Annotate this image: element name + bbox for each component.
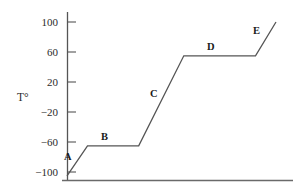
y-tick-label-60: 60: [24, 47, 58, 58]
y-tick-label-minus100: −100: [14, 167, 58, 178]
y-tick-label-20: 20: [24, 77, 58, 88]
chart-figure: 100 60 20 −20 −60 −100 T° A B C D E: [0, 0, 294, 194]
y-tick-label-minus20: −20: [20, 107, 58, 118]
y-tick-label-100: 100: [24, 17, 58, 28]
segment-label-e: E: [253, 26, 260, 37]
y-tick-label-minus60: −60: [20, 137, 58, 148]
segment-label-a: A: [64, 152, 72, 163]
chart-plot-area: [0, 0, 294, 194]
segment-label-b: B: [101, 132, 108, 143]
heating-curve-line: [67, 22, 276, 176]
y-axis-title: T°: [17, 92, 29, 104]
segment-label-d: D: [207, 42, 215, 53]
segment-label-c: C: [150, 89, 158, 100]
